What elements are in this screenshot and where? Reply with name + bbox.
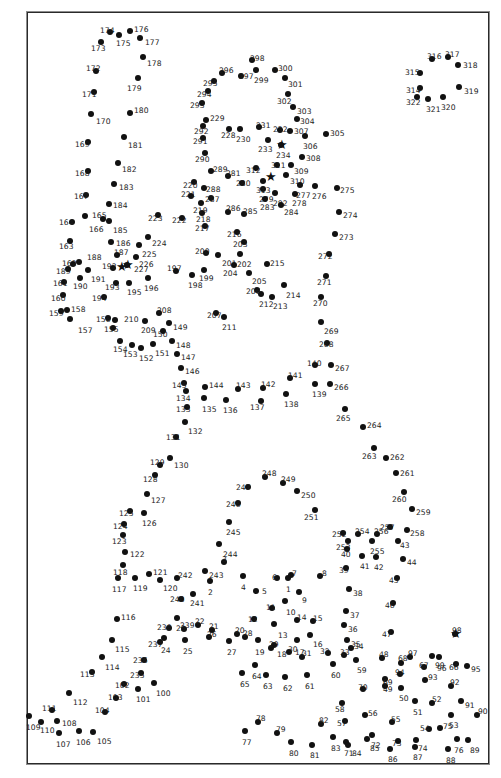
dot-109[interactable]: [26, 713, 32, 719]
dot-154[interactable]: [117, 338, 123, 344]
dot-86[interactable]: [387, 746, 393, 752]
dot-17[interactable]: [294, 637, 300, 643]
dot-225[interactable]: [136, 242, 142, 248]
dot-101[interactable]: [135, 686, 141, 692]
dot-153[interactable]: [129, 342, 135, 348]
dot-89[interactable]: [465, 737, 471, 743]
dot-179[interactable]: [135, 75, 141, 81]
dot-318[interactable]: [455, 62, 461, 68]
dot-16[interactable]: [307, 632, 313, 638]
dot-53[interactable]: [448, 712, 454, 718]
dot-157[interactable]: [67, 316, 73, 322]
dot-178[interactable]: [140, 54, 146, 60]
dot-199[interactable]: [201, 267, 207, 273]
dot-308[interactable]: [299, 154, 305, 160]
dot-138[interactable]: [283, 391, 289, 397]
dot-120[interactable]: [157, 577, 163, 583]
dot-195[interactable]: [126, 280, 132, 286]
dot-319[interactable]: [456, 84, 462, 90]
dot-61[interactable]: [304, 672, 310, 678]
dot-132[interactable]: [182, 419, 188, 425]
dot-10[interactable]: [282, 598, 288, 604]
dot-146[interactable]: [178, 365, 184, 371]
dot-37[interactable]: [343, 608, 349, 614]
dot-4[interactable]: [240, 573, 246, 579]
dot-44[interactable]: [400, 556, 406, 562]
dot-9[interactable]: [296, 589, 302, 595]
dot-91[interactable]: [458, 698, 464, 704]
dot-110[interactable]: [38, 719, 44, 725]
dot-190[interactable]: [77, 275, 83, 281]
dot-87[interactable]: [412, 744, 418, 750]
dot-36[interactable]: [341, 622, 347, 628]
dot-250[interactable]: [294, 488, 300, 494]
dot-205[interactable]: [246, 270, 252, 276]
dot-259[interactable]: [409, 506, 415, 512]
dot-181[interactable]: [121, 134, 127, 140]
dot-107[interactable]: [56, 730, 62, 736]
dot-278[interactable]: [292, 191, 298, 197]
dot-149[interactable]: [166, 320, 172, 326]
dot-209[interactable]: [142, 318, 148, 324]
dot-170[interactable]: [88, 111, 94, 117]
dot-276[interactable]: [312, 183, 318, 189]
dot-51[interactable]: [412, 698, 418, 704]
dot-186[interactable]: [108, 239, 114, 245]
dot-211[interactable]: [221, 314, 227, 320]
dot-212[interactable]: [258, 291, 264, 297]
dot-88[interactable]: [445, 746, 451, 752]
dot-147[interactable]: [174, 351, 180, 357]
dot-202[interactable]: [237, 251, 243, 257]
dot-83[interactable]: [330, 734, 336, 740]
dot-204[interactable]: [231, 262, 237, 268]
dot-116[interactable]: [114, 616, 120, 622]
dot-191[interactable]: [85, 267, 91, 273]
dot-126[interactable]: [141, 510, 147, 516]
dot-80[interactable]: [288, 739, 294, 745]
dot-108[interactable]: [54, 718, 60, 724]
dot-74[interactable]: [413, 737, 419, 743]
dot-130[interactable]: [167, 455, 173, 461]
dot-27[interactable]: [226, 638, 232, 644]
dot-210[interactable]: [112, 317, 118, 323]
dot-114[interactable]: [99, 654, 105, 660]
dot-50[interactable]: [398, 685, 404, 691]
dot-320[interactable]: [440, 94, 446, 100]
dot-184[interactable]: [106, 201, 112, 207]
dot-122[interactable]: [122, 549, 128, 555]
dot-96[interactable]: [436, 654, 442, 660]
dot-176[interactable]: [127, 28, 133, 34]
dot-273[interactable]: [332, 231, 338, 237]
dot-127[interactable]: [144, 491, 150, 497]
dot-255[interactable]: [369, 538, 375, 544]
dot-105[interactable]: [90, 729, 96, 735]
dot-185[interactable]: [106, 218, 112, 224]
dot-243[interactable]: [202, 568, 208, 574]
dot-183[interactable]: [111, 181, 117, 187]
dot-19[interactable]: [255, 637, 261, 643]
dot-264[interactable]: [360, 424, 366, 430]
dot-310[interactable]: [283, 172, 289, 178]
dot-188[interactable]: [76, 259, 82, 265]
dot-65[interactable]: [239, 670, 245, 676]
dot-41[interactable]: [359, 553, 365, 559]
dot-59[interactable]: [353, 657, 359, 663]
dot-241[interactable]: [190, 591, 196, 597]
dot-265[interactable]: [342, 406, 348, 412]
dot-224[interactable]: [145, 234, 151, 240]
dot-245[interactable]: [226, 519, 232, 525]
dot-136[interactable]: [223, 397, 229, 403]
dot-95[interactable]: [464, 663, 470, 669]
dot-282[interactable]: [272, 190, 278, 196]
dot-35[interactable]: [344, 637, 350, 643]
dot-81[interactable]: [309, 742, 315, 748]
dot-148[interactable]: [169, 338, 175, 344]
dot-263[interactable]: [371, 445, 377, 451]
dot-5[interactable]: [253, 588, 259, 594]
dot-198[interactable]: [189, 272, 195, 278]
dot-135[interactable]: [201, 395, 207, 401]
dot-165[interactable]: [82, 213, 88, 219]
dot-262[interactable]: [383, 455, 389, 461]
dot-76[interactable]: [454, 736, 460, 742]
dot-112[interactable]: [66, 690, 72, 696]
